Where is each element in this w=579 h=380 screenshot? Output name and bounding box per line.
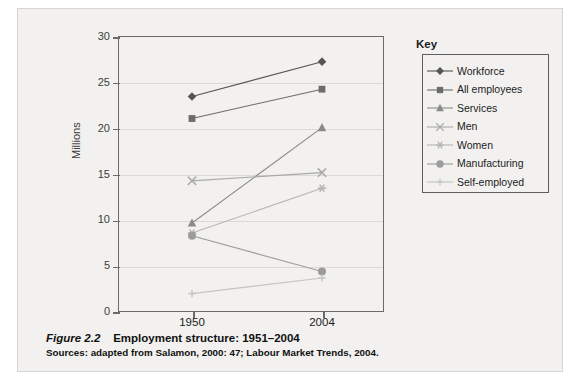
legend-item-workforce[interactable]: Workforce [423,61,548,81]
legend-item-all-employees[interactable]: All employees [423,80,548,100]
figure-number: Figure 2.2 [46,332,100,344]
legend-label: Men [457,121,477,132]
figure-page: Millions 30 25 20 [0,0,579,380]
legend-label: Self-employed [457,177,524,188]
legend-label: Services [457,103,497,114]
legend-item-men[interactable]: Men [423,117,548,137]
x-label-1950: 1950 [162,317,222,329]
legend-item-services[interactable]: Services [423,98,548,118]
y-label-0: 0 [84,306,110,317]
figure-sources: Sources: adapted from Salamon, 2000: 47;… [46,347,516,360]
series-manufacturing [188,232,326,276]
point-services-2004 [318,123,326,131]
point-workforce-1950 [188,92,197,101]
x-label-2004: 2004 [292,317,352,329]
star-marker-icon [423,138,457,152]
diamond-marker-icon [423,64,457,78]
legend-title: Key [416,38,437,50]
caption-title-line: Figure 2.2 Employment structure: 1951–20… [46,331,516,345]
legend-box: WorkforceAll employeesServicesMenWomenMa… [422,54,549,193]
point-workforce-2004 [318,57,327,66]
point-all-employees-1950 [189,115,196,122]
plus-marker-icon [423,175,457,189]
point-self-employed-2004 [318,274,325,281]
point-all-employees-2004 [319,86,326,93]
legend-label: Workforce [457,66,505,77]
series-men [188,168,326,185]
point-women-2004 [318,185,326,192]
figure-title: Employment structure: 1951–2004 [113,332,300,344]
y-label-20: 20 [84,123,110,134]
circle-marker-icon [423,157,457,171]
legend-item-self-employed[interactable]: Self-employed [423,172,548,192]
y-label-10: 10 [84,214,110,225]
point-self-employed-1950 [188,290,195,297]
point-manufacturing-1950 [188,232,196,240]
square-marker-icon [423,83,457,97]
series-workforce [188,57,327,100]
point-manufacturing-2004 [318,268,326,276]
triangle-marker-icon [423,101,457,115]
legend-label: All employees [457,84,522,95]
y-label-30: 30 [84,31,110,42]
legend-label: Women [457,140,493,151]
y-label-5: 5 [84,260,110,271]
y-label-25: 25 [84,77,110,88]
figure-caption: Figure 2.2 Employment structure: 1951–20… [46,331,516,360]
data-series-layer [118,36,384,312]
y-label-15: 15 [84,169,110,180]
y-axis-title: Millions [70,122,82,159]
page-panel: Millions 30 25 20 [17,8,563,372]
legend-item-manufacturing[interactable]: Manufacturing [423,154,548,174]
point-services-1950 [188,218,196,226]
chart-figure: Millions 30 25 20 [18,9,564,373]
legend-item-women[interactable]: Women [423,135,548,155]
series-all-employees [189,86,326,122]
y-tick-0 [113,312,120,314]
legend-label: Manufacturing [457,158,524,169]
series-self-employed [188,274,325,297]
cross-marker-icon [423,120,457,134]
